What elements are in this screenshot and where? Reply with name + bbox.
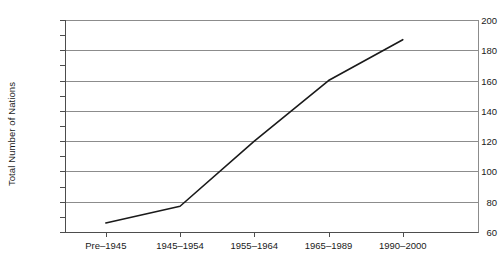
- gridline: [66, 81, 478, 82]
- x-tick-label: 1945–1954: [156, 240, 204, 251]
- x-tick: [254, 232, 255, 237]
- line-chart: Total Number of Nations 6080100120140160…: [0, 0, 500, 268]
- gridline: [66, 20, 478, 21]
- x-tick-label: 1955–1964: [231, 240, 279, 251]
- x-tick: [329, 232, 330, 237]
- y-axis-title: Total Number of Nations: [0, 0, 22, 268]
- x-tick-label: 1965–1989: [305, 240, 353, 251]
- x-tick: [106, 232, 107, 237]
- x-tick-label: Pre–1945: [85, 240, 126, 251]
- gridline: [66, 111, 478, 112]
- plot-area: [65, 20, 479, 233]
- gridline: [66, 171, 478, 172]
- x-tick: [403, 232, 404, 237]
- gridline: [66, 50, 478, 51]
- gridline: [66, 202, 478, 203]
- x-tick: [180, 232, 181, 237]
- x-tick-label: 1990–2000: [379, 240, 427, 251]
- gridline: [66, 141, 478, 142]
